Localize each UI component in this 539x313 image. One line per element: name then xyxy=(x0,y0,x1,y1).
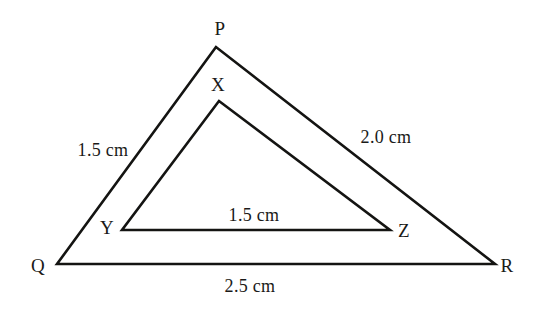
vertex-label-y: Y xyxy=(100,218,114,237)
measurement-label-pr: 2.0 cm xyxy=(361,128,412,146)
vertex-label-z: Z xyxy=(398,221,410,240)
vertex-label-q: Q xyxy=(31,256,45,275)
vertex-label-p: P xyxy=(215,19,226,38)
measurement-label-pq: 1.5 cm xyxy=(78,141,129,159)
vertex-label-r: R xyxy=(501,256,514,275)
vertex-label-x: X xyxy=(211,75,225,94)
measurement-label-qr: 2.5 cm xyxy=(225,277,276,295)
geometry-figure: P X Q R Y Z 1.5 cm 2.0 cm 1.5 cm 2.5 cm xyxy=(0,0,539,313)
measurement-label-yz: 1.5 cm xyxy=(229,206,280,224)
